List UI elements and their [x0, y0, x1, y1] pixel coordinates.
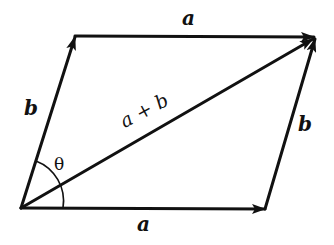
label-bottom-a: a	[137, 214, 150, 234]
label-left-b: b	[24, 98, 38, 118]
vector-a-bottom	[21, 208, 265, 209]
label-theta: θ	[54, 156, 64, 173]
vector-a-top	[75, 36, 314, 37]
label-top-a: a	[182, 8, 195, 28]
parallelogram-diagram	[0, 0, 334, 245]
label-right-b: b	[298, 114, 312, 134]
